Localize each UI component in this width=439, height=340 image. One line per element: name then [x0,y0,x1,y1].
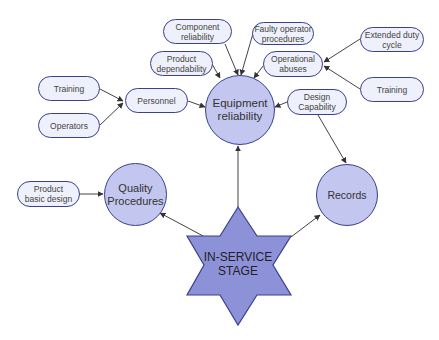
label: Faulty operator [254,24,311,34]
node-equipment-reliability[interactable]: Equipmentreliability [205,75,275,145]
label: procedures [254,34,311,44]
label: reliability [176,32,220,42]
arrow-extended-operational [324,39,360,62]
label: reliability [213,110,268,123]
arrow-training-operational [324,66,360,89]
label: Equipment [213,97,268,110]
arrow-productdep-equipment [212,64,220,78]
node-component-reliability[interactable]: Componentreliability [163,19,232,44]
label: Operational [271,54,315,64]
arrow-operational-equipment [254,66,263,78]
node-operators[interactable]: Operators [38,113,100,138]
star-label-line1: IN-SERVICE [188,250,288,264]
label: Capability [298,102,335,112]
arrow-component-equipment [225,44,238,75]
arrow-design-records [318,115,346,163]
label: Quality [107,182,163,195]
node-personnel[interactable]: Personnel [125,88,188,113]
node-operational-abuses[interactable]: Operationalabuses [263,51,323,77]
arrow-star-records [291,215,320,237]
arrow-operators-personnel [100,103,123,125]
node-training-right[interactable]: Training [360,77,424,102]
node-training-left[interactable]: Training [38,76,100,101]
label: basic design [25,194,72,204]
label: Records [327,189,366,201]
label: Personnel [137,96,175,106]
label: Product [156,54,206,64]
node-quality-procedures[interactable]: QualityProcedures [104,163,167,226]
node-records[interactable]: Records [316,164,378,226]
label: dependability [156,64,206,74]
label: Procedures [107,195,163,208]
label: Training [377,85,407,95]
label: Component [176,22,220,32]
node-design-capability[interactable]: DesignCapability [287,89,347,115]
in-service-stage-label: IN-SERVICE STAGE [188,250,288,278]
label: Product [25,184,72,194]
label: Extended duty [365,30,419,40]
arrow-design-equipment [275,102,287,107]
label: cycle [365,40,419,50]
node-product-dependability[interactable]: Productdependability [150,51,213,76]
label: Training [54,84,84,94]
arrow-star-quality [160,213,205,237]
node-product-basic-design[interactable]: Productbasic design [17,181,80,207]
star-label-line2: STAGE [188,264,288,278]
arrow-personnel-equipment [188,101,205,107]
arrow-training-personnel [100,89,123,101]
node-faulty-operator-procedures[interactable]: Faulty operatorprocedures [252,22,314,45]
label: Operators [50,121,88,131]
label: abuses [271,64,315,74]
node-extended-duty-cycle[interactable]: Extended dutycycle [360,27,424,52]
label: Design [298,92,335,102]
